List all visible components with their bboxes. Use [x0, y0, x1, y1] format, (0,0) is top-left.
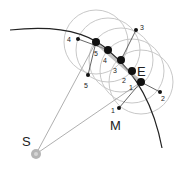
- earth-dot-2: [128, 67, 136, 75]
- sun-to-earth-1-line: [36, 82, 141, 154]
- earth-label-4: 4: [103, 57, 107, 64]
- moon-label-1: 1: [111, 107, 115, 114]
- moon-dot-3: [134, 28, 138, 32]
- earth-label-1: 1: [129, 84, 133, 91]
- moon-label-3: 3: [140, 24, 144, 31]
- earth-label-3: 3: [113, 67, 117, 74]
- moon-label-4: 4: [67, 36, 71, 43]
- earth-dot-5: [92, 38, 100, 46]
- moon-dot-2: [158, 90, 162, 94]
- earth-label: E: [137, 64, 146, 79]
- sun-earth-moon-diagram: 5 4 3 2 1 1 2 3 4 5 S E M: [0, 0, 182, 172]
- earth-label-2: 2: [122, 77, 126, 84]
- moon-dot-4: [76, 37, 80, 41]
- sun-core-icon: [34, 152, 38, 156]
- earth-dot-4: [104, 46, 112, 54]
- moon-label-5: 5: [84, 82, 88, 89]
- moon-dot-1: [117, 106, 121, 110]
- sun-label: S: [22, 134, 31, 149]
- moon-dot-5: [86, 73, 90, 77]
- earth-label-5: 5: [94, 50, 98, 57]
- moon-label-2: 2: [161, 95, 165, 102]
- earth-dot-3: [117, 56, 125, 64]
- earth-moon-line-3: [121, 30, 136, 60]
- sun-to-earth-5-line: [36, 42, 96, 154]
- earth-dot-1: [137, 78, 145, 86]
- moon-label: M: [110, 118, 121, 133]
- sun-lines: [36, 42, 141, 154]
